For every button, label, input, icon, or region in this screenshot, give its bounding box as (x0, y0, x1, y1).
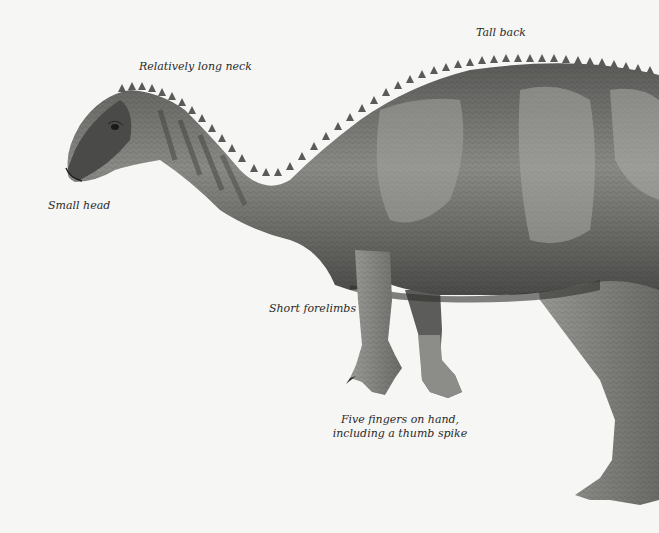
dinosaur-illustration (0, 0, 659, 533)
label-long-neck: Relatively long neck (139, 60, 252, 74)
eye-icon (111, 124, 119, 130)
label-small-head: Small head (48, 199, 110, 213)
dinosaur-diagram: Tall back Relatively long neck Small hea… (0, 0, 659, 533)
label-tall-back: Tall back (476, 26, 526, 40)
label-five-fingers-line2: including a thumb spike (300, 427, 500, 441)
label-short-forelimbs: Short forelimbs (269, 302, 356, 316)
far-forelimb (405, 290, 462, 398)
label-five-fingers-line1: Five fingers on hand, (300, 413, 500, 427)
label-five-fingers: Five fingers on hand, including a thumb … (300, 413, 500, 441)
